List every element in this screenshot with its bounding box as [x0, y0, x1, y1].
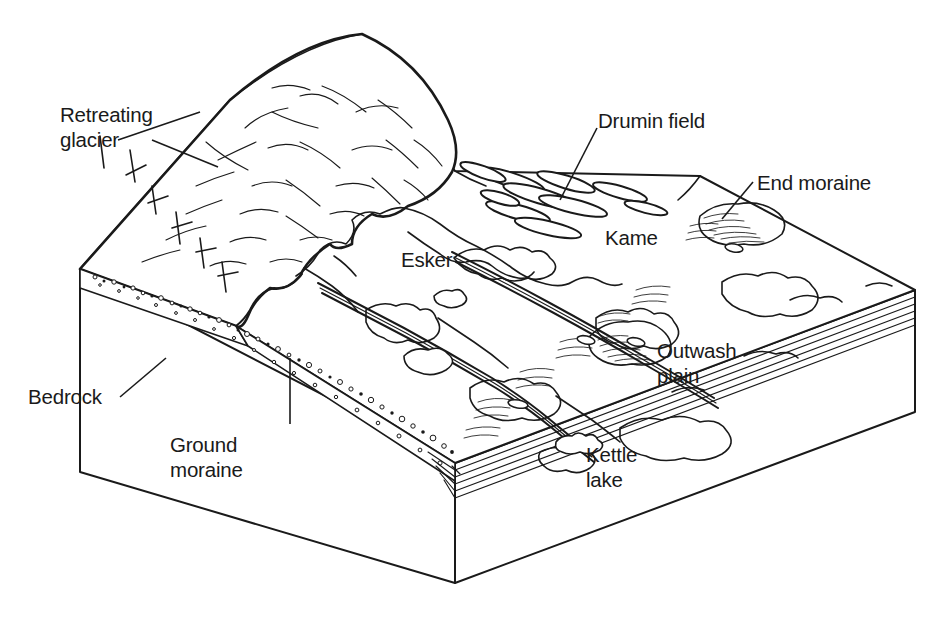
diagram-canvas: Retreating glacier Drumin field End mora…: [0, 0, 930, 633]
label-ground-moraine-line2: moraine: [170, 458, 243, 481]
label-esker: Esker: [401, 248, 453, 271]
label-retreating-glacier-line2: glacier: [60, 128, 119, 151]
label-ground-moraine-line1: Ground: [170, 433, 237, 456]
label-bedrock: Bedrock: [28, 385, 103, 408]
label-drumlin-field: Drumin field: [598, 109, 705, 132]
glacial-block-diagram-figure: Retreating glacier Drumin field End mora…: [0, 0, 930, 633]
label-kame: Kame: [605, 226, 658, 249]
label-end-moraine: End moraine: [757, 171, 871, 194]
label-retreating-glacier-line1: Retreating: [60, 103, 153, 126]
kettle-lake-small-1: [434, 290, 467, 308]
label-outwash-plain-line2: plain: [657, 364, 699, 387]
label-outwash-plain-line1: Outwash: [657, 339, 737, 362]
label-kettle-lake-line2: lake: [586, 468, 623, 491]
label-kettle-lake-line1: Kettle: [586, 443, 637, 466]
